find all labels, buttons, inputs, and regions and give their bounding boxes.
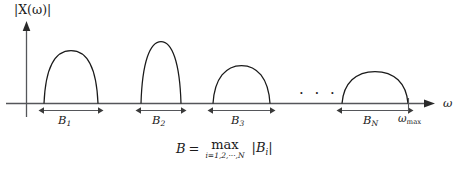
band-extent-arrow-1 xyxy=(39,107,104,114)
formula-equals: = xyxy=(189,142,200,155)
formula-max-operator: max i=1,2,···,N xyxy=(205,138,244,160)
formula-max-label: max xyxy=(211,138,238,151)
band-extent-arrow-3 xyxy=(208,107,276,114)
omega-max-label: ωmax xyxy=(398,113,421,126)
ellipsis-dots: · · · xyxy=(299,86,338,101)
band-label-N-sub: N xyxy=(371,119,378,128)
formula-lhs: B xyxy=(176,142,186,155)
formula-operand-open: |B xyxy=(252,140,266,155)
band-label-2: B2 xyxy=(152,115,165,128)
band-label-1: B1 xyxy=(58,115,71,128)
band-label-3-sub: 3 xyxy=(239,119,244,128)
formula-operand: |Bi| xyxy=(252,141,273,156)
y-axis-label: |X(ω)| xyxy=(14,4,51,17)
band-curve-N xyxy=(342,72,408,104)
band-label-N: BN xyxy=(363,115,378,128)
formula-max-range: i=1,2,···,N xyxy=(205,152,244,160)
bandwidth-formula: B = max i=1,2,···,N |Bi| xyxy=(176,138,273,160)
band-label-3: B3 xyxy=(231,115,244,128)
band-curve-1 xyxy=(44,51,98,104)
omega-max-sub: max xyxy=(407,118,422,126)
band-extent-arrow-2 xyxy=(136,107,187,114)
band-curve-3 xyxy=(213,66,270,104)
omega-max-base: ω xyxy=(398,112,407,124)
spectrum-diagram: |X(ω)| ω · · · B1 B2 B3 BN ωmax B = max … xyxy=(0,0,464,171)
band-label-1-sub: 1 xyxy=(66,119,71,128)
band-label-2-sub: 2 xyxy=(160,119,165,128)
y-axis xyxy=(23,21,31,117)
x-axis xyxy=(6,100,435,108)
band-curve-2 xyxy=(141,42,181,104)
formula-operand-close: | xyxy=(268,140,272,155)
x-axis-label: ω xyxy=(443,98,452,110)
